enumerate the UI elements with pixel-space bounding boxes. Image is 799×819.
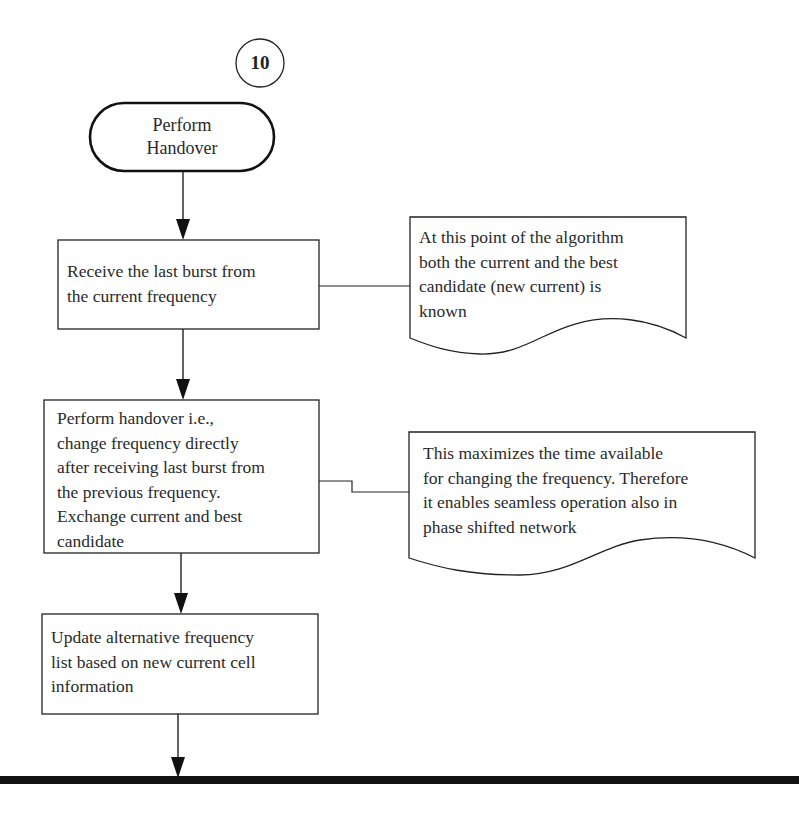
terminal-line: Handover — [147, 137, 218, 160]
arrowhead-icon — [174, 593, 188, 614]
text-line: Perform handover i.e., — [57, 406, 317, 431]
text-line: list based on new current cell — [51, 650, 316, 675]
text-line: known — [419, 299, 684, 324]
text-line: after receiving last burst from — [57, 455, 317, 480]
text-line: phase shifted network — [423, 515, 753, 540]
process-box-2-text: Perform handover i.e., change frequency … — [57, 406, 317, 553]
text-line: candidate — [57, 529, 317, 554]
text-line: Exchange current and best — [57, 504, 317, 529]
connector-label: 10 — [236, 39, 284, 87]
terminal-line: Perform — [153, 114, 212, 137]
note-1-text: At this point of the algorithm both the … — [419, 225, 684, 323]
text-line: the previous frequency. — [57, 480, 317, 505]
arrowhead-icon — [176, 379, 190, 400]
process-box-1-text: Receive the last burst from the current … — [67, 259, 317, 308]
text-line: candidate (new current) is — [419, 274, 684, 299]
text-line: Receive the last burst from — [67, 259, 317, 284]
arrowhead-icon — [176, 219, 190, 240]
page-divider-bar — [0, 776, 799, 784]
text-line: information — [51, 674, 316, 699]
process-box-3-text: Update alternative frequency list based … — [51, 625, 316, 699]
arrowhead-icon — [171, 757, 185, 778]
annotation-connector-2 — [319, 481, 409, 492]
text-line: change frequency directly — [57, 431, 317, 456]
note-2-text: This maximizes the time available for ch… — [423, 441, 753, 539]
text-line: This maximizes the time available — [423, 441, 753, 466]
terminal-label: Perform Handover — [89, 102, 275, 172]
text-line: for changing the frequency. Therefore — [423, 466, 753, 491]
text-line: Update alternative frequency — [51, 625, 316, 650]
text-line: the current frequency — [67, 284, 317, 309]
text-line: both the current and the best — [419, 250, 684, 275]
text-line: At this point of the algorithm — [419, 225, 684, 250]
text-line: it enables seamless operation also in — [423, 490, 753, 515]
